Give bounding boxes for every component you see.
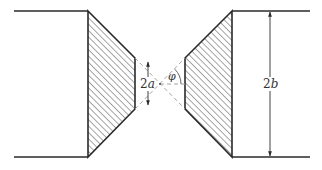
angle-phi-arc xyxy=(175,69,181,84)
orifice-diagram: 2a 2b φ xyxy=(0,0,322,170)
label-2b: 2b xyxy=(263,77,278,91)
left-wall xyxy=(14,11,135,157)
left-hatched-section xyxy=(88,11,135,157)
label-2a: 2a xyxy=(140,77,155,91)
label-phi: φ xyxy=(168,70,176,83)
right-hatched-section xyxy=(185,11,232,157)
right-wall xyxy=(185,11,310,157)
apex-point xyxy=(159,83,161,85)
